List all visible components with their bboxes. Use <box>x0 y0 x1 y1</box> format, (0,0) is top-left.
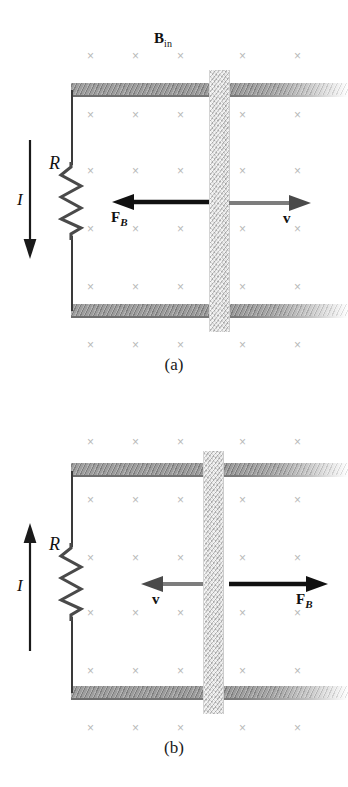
field-mark: × <box>85 723 96 734</box>
field-mark: × <box>175 340 186 351</box>
resistor-symbol <box>58 543 86 621</box>
field-mark: × <box>85 608 96 619</box>
field-mark: × <box>292 166 303 177</box>
resistor-symbol <box>58 162 86 240</box>
circuit-wire-lower <box>71 236 73 311</box>
field-mark: × <box>85 166 96 177</box>
field-mark: × <box>237 608 248 619</box>
field-mark: × <box>237 51 248 62</box>
velocity-arrow-right <box>229 193 312 213</box>
resistor-label: R <box>49 534 60 555</box>
circuit-wire-upper <box>71 90 73 165</box>
figure-panel-a: Bin × × × × × × × × × × × × × × × × × × … <box>0 0 348 394</box>
field-mark: × <box>237 437 248 448</box>
field-mark: × <box>130 51 141 62</box>
velocity-arrow-left <box>141 574 204 594</box>
field-mark: × <box>237 110 248 121</box>
panel-b-stage: × × × × × × × × × × × × × × × × × × × × … <box>0 393 348 743</box>
magnetic-force-label: FB <box>296 591 313 610</box>
field-mark: × <box>175 110 186 121</box>
current-label: I <box>17 190 23 210</box>
circuit-wire-upper <box>71 471 73 547</box>
field-mark: × <box>175 608 186 619</box>
current-label: I <box>17 576 23 596</box>
figure-panel-b: × × × × × × × × × × × × × × × × × × × × … <box>0 393 348 787</box>
field-mark: × <box>292 282 303 293</box>
field-mark: × <box>175 495 186 506</box>
field-mark: × <box>292 224 303 235</box>
field-mark: × <box>85 666 96 677</box>
field-mark: × <box>130 495 141 506</box>
field-mark: × <box>175 723 186 734</box>
magnetic-force-label: FB <box>111 209 128 228</box>
panel-a-stage: Bin × × × × × × × × × × × × × × × × × × … <box>0 0 348 350</box>
field-mark: × <box>130 608 141 619</box>
field-mark: × <box>85 553 96 564</box>
figure-canvas: Bin × × × × × × × × × × × × × × × × × × … <box>0 0 348 787</box>
field-mark: × <box>175 166 186 177</box>
field-mark: × <box>292 437 303 448</box>
field-mark: × <box>237 224 248 235</box>
field-mark: × <box>237 282 248 293</box>
field-mark: × <box>85 495 96 506</box>
field-mark: × <box>85 51 96 62</box>
field-mark: × <box>292 110 303 121</box>
field-mark: × <box>130 437 141 448</box>
field-mark: × <box>292 495 303 506</box>
field-mark: × <box>175 553 186 564</box>
field-mark: × <box>130 166 141 177</box>
field-mark: × <box>237 553 248 564</box>
circuit-wire-lower <box>71 617 73 693</box>
field-mark: × <box>237 166 248 177</box>
field-mark: × <box>85 340 96 351</box>
field-mark: × <box>237 666 248 677</box>
field-mark: × <box>175 666 186 677</box>
field-mark: × <box>130 340 141 351</box>
panel-caption-a: (a) <box>0 355 348 375</box>
field-mark: × <box>292 340 303 351</box>
magnetic-force-arrow-right <box>229 574 329 594</box>
field-mark: × <box>237 723 248 734</box>
field-mark: × <box>237 340 248 351</box>
sliding-conducting-bar[interactable] <box>203 451 224 714</box>
field-mark: × <box>175 224 186 235</box>
field-mark: × <box>292 553 303 564</box>
field-mark: × <box>175 51 186 62</box>
field-mark: × <box>130 224 141 235</box>
resistor-label: R <box>49 153 60 174</box>
field-mark: × <box>237 495 248 506</box>
field-mark: × <box>130 110 141 121</box>
field-mark: × <box>292 723 303 734</box>
velocity-label: v <box>152 591 160 608</box>
field-mark: × <box>292 51 303 62</box>
field-mark: × <box>130 723 141 734</box>
field-mark: × <box>85 110 96 121</box>
magnetic-field-label: Bin <box>154 30 172 49</box>
velocity-label: v <box>283 210 291 227</box>
field-mark: × <box>85 282 96 293</box>
field-mark: × <box>130 666 141 677</box>
field-mark: × <box>85 437 96 448</box>
sliding-conducting-bar[interactable] <box>209 70 230 332</box>
panel-caption-b: (b) <box>0 738 348 758</box>
field-mark: × <box>292 666 303 677</box>
field-mark: × <box>130 282 141 293</box>
field-mark: × <box>175 437 186 448</box>
field-mark: × <box>130 553 141 564</box>
field-mark: × <box>175 282 186 293</box>
field-mark: × <box>85 224 96 235</box>
